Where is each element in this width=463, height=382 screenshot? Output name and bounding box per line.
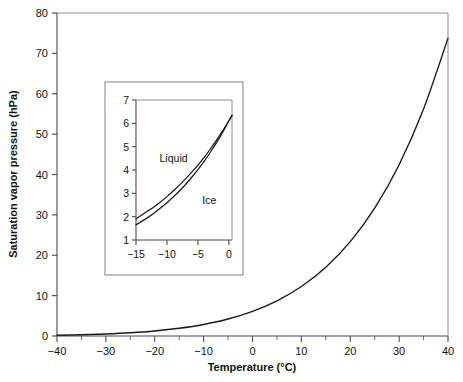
y-tick-label: 50 (36, 128, 48, 140)
x-axis-tick-labels: −40−30−20−10010203040 (48, 345, 454, 357)
saturation-vapor-pressure-chart: 01020304050607080 −40−30−20−10010203040 … (0, 0, 463, 382)
inset-y-tick-label: 1 (123, 234, 129, 246)
inset-liquid-label: Liquid (160, 152, 188, 164)
inset-y-tick-label: 6 (123, 117, 129, 129)
y-tick-label: 30 (36, 209, 48, 221)
x-tick-label: −10 (194, 345, 213, 357)
x-tick-label: −20 (145, 345, 164, 357)
y-tick-label: 70 (36, 47, 48, 59)
inset-y-tick-label: 7 (123, 94, 129, 106)
inset-y-tick-label: 3 (123, 187, 129, 199)
y-tick-label: 20 (36, 249, 48, 261)
inset-x-tick-label: 0 (226, 248, 232, 260)
x-tick-label: 40 (442, 345, 454, 357)
y-tick-label: 80 (36, 7, 48, 19)
x-tick-label: 20 (344, 345, 356, 357)
x-tick-label: 30 (393, 345, 405, 357)
inset-x-tick-label: −15 (127, 248, 145, 260)
chart-canvas: 01020304050607080 −40−30−20−10010203040 … (0, 0, 463, 382)
y-axis-title: Saturation vapor pressure (hPa) (7, 90, 19, 258)
inset-y-tick-label: 4 (123, 164, 129, 176)
inset-panel: 1234567 −15−10−50 Liquid Ice (105, 82, 243, 275)
y-tick-label: 60 (36, 88, 48, 100)
y-axis-tick-labels: 01020304050607080 (36, 7, 48, 342)
inset-y-tick-label: 2 (123, 211, 129, 223)
y-tick-label: 10 (36, 290, 48, 302)
inset-ice-label: Ice (202, 194, 216, 206)
inset-frame (105, 82, 243, 275)
inset-x-tick-label: −5 (192, 248, 204, 260)
x-tick-label: −40 (48, 345, 67, 357)
x-axis-title: Temperature (°C) (208, 361, 297, 373)
x-tick-label: 10 (295, 345, 307, 357)
y-tick-label: 0 (42, 330, 48, 342)
inset-y-tick-label: 5 (123, 141, 129, 153)
x-tick-label: 0 (249, 345, 255, 357)
y-tick-label: 40 (36, 169, 48, 181)
x-tick-label: −30 (97, 345, 116, 357)
inset-x-tick-label: −10 (158, 248, 176, 260)
